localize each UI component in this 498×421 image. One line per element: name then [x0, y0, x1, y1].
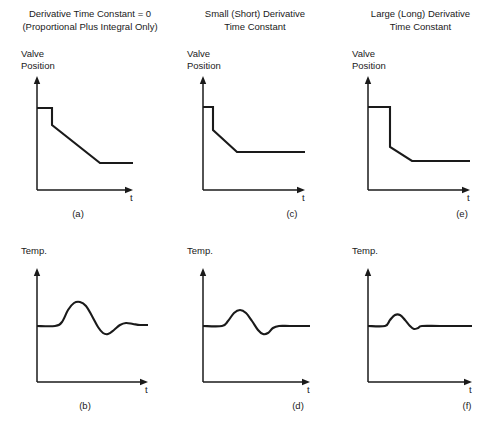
- x-axis-arrow-f: [464, 379, 472, 385]
- y-axis-arrow-f: [365, 268, 371, 276]
- x-axis-arrow-d: [302, 379, 310, 385]
- y-axis-arrow-d: [200, 268, 206, 276]
- curve-d: [203, 310, 310, 334]
- y-axis-arrow-a: [34, 76, 40, 84]
- x-axis-arrow-e: [462, 187, 470, 193]
- plots-svg: [0, 0, 498, 421]
- curve-e: [368, 107, 470, 161]
- y-axis-arrow-c: [200, 76, 206, 84]
- curve-c: [203, 107, 305, 152]
- curve-b: [37, 302, 148, 334]
- y-axis-arrow-b: [34, 268, 40, 276]
- curve-f: [368, 314, 472, 329]
- x-axis-arrow-c: [297, 187, 305, 193]
- x-axis-arrow-a: [125, 187, 133, 193]
- x-axis-arrow-b: [140, 379, 148, 385]
- curve-a: [37, 108, 133, 163]
- figure-canvas: Derivative Time Constant = 0 (Proportion…: [0, 0, 498, 421]
- y-axis-arrow-e: [365, 76, 371, 84]
